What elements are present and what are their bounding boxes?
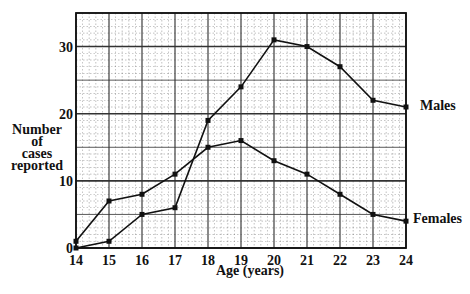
data-point-females (371, 212, 376, 217)
y-tick-label: 10 (59, 174, 73, 189)
data-point-males (107, 239, 112, 244)
data-point-males (305, 44, 310, 49)
x-axis-title: Age (years) (190, 263, 310, 279)
y-tick-label: 30 (59, 40, 73, 55)
series-label-males: Males (420, 98, 456, 114)
x-tick-label: 15 (102, 253, 116, 268)
data-point-males (173, 205, 178, 210)
y-axis-title-line: reported (2, 160, 72, 172)
x-tick-label: 23 (366, 253, 380, 268)
y-tick-label: 20 (59, 107, 73, 122)
data-point-females (107, 199, 112, 204)
data-point-males (74, 246, 79, 251)
data-point-males (371, 98, 376, 103)
x-tick-label: 14 (69, 253, 83, 268)
data-point-females (239, 138, 244, 143)
data-point-females (305, 172, 310, 177)
data-point-females (404, 219, 409, 224)
data-point-males (206, 118, 211, 123)
data-point-males (338, 64, 343, 69)
data-point-males (404, 105, 409, 110)
data-point-females (206, 145, 211, 150)
data-point-females (272, 158, 277, 163)
chart-grid (76, 13, 406, 248)
x-tick-label: 16 (135, 253, 149, 268)
data-point-females (338, 192, 343, 197)
data-point-males (140, 212, 145, 217)
data-point-females (173, 172, 178, 177)
x-tick-label: 17 (168, 253, 182, 268)
data-point-males (239, 84, 244, 89)
x-tick-label: 22 (333, 253, 347, 268)
data-point-females (74, 239, 79, 244)
data-point-males (272, 37, 277, 42)
y-axis-title: Number of cases reported (2, 124, 72, 172)
data-point-females (140, 192, 145, 197)
series-label-females: Females (413, 211, 462, 227)
x-tick-label: 24 (399, 253, 413, 268)
